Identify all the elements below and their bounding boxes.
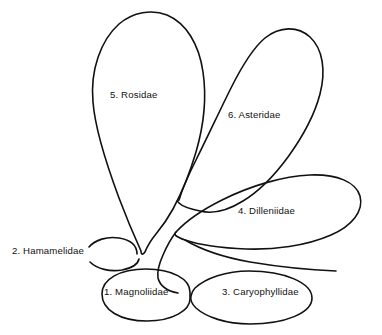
- bubble-diagram: 1. Magnoliidae 2. Hamamelidae 3. Caryoph…: [0, 0, 382, 335]
- lobe-outline-rosidae: [93, 12, 205, 254]
- label-rosidae: 5. Rosidae: [110, 90, 157, 100]
- label-hamamelidae: 2. Hamamelidae: [12, 246, 84, 256]
- label-dilleniidae: 4. Dilleniidae: [238, 206, 295, 216]
- label-caryophyllidae: 3. Caryophyllidae: [222, 287, 299, 297]
- lobe-outline-hamamelidae-lower: [90, 259, 139, 271]
- diagram-canvas: [0, 0, 382, 335]
- lobe-outline-hamamelidae-upper: [89, 237, 137, 254]
- lobe-outline-caryophyllidae: [191, 271, 312, 324]
- label-magnoliidae: 1. Magnoliidae: [104, 287, 169, 297]
- stem-dilleniidae: [158, 232, 178, 293]
- label-asteridae: 6. Asteridae: [228, 110, 280, 120]
